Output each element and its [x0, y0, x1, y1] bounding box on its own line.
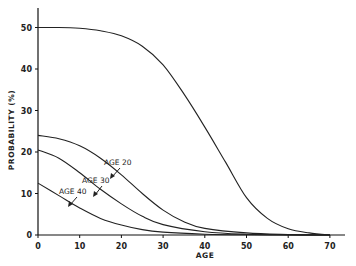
y-tick-label: 50: [21, 24, 33, 33]
x-tick-label: 40: [199, 242, 211, 251]
y-axis-title: PROBABILITY (%): [7, 90, 16, 170]
curve-age-20: [38, 135, 330, 235]
x-tick-label: 30: [158, 242, 170, 251]
x-tick-label: 60: [283, 242, 295, 251]
y-axis-ticks: 01020304050: [21, 24, 38, 241]
curve-upper-curve-unlabeled: [38, 27, 330, 235]
y-tick-label: 40: [21, 65, 33, 74]
annotation-age-20-label: AGE 20: [104, 158, 132, 167]
x-axis-ticks: 010203040506070: [35, 235, 336, 251]
y-tick-label: 20: [21, 148, 33, 157]
series-curves: [38, 27, 330, 235]
x-tick-label: 10: [74, 242, 86, 251]
y-tick-label: 30: [21, 107, 33, 116]
probability-vs-age-chart: 01020304050 010203040506070 AGE PROBABIL…: [0, 0, 356, 266]
x-tick-label: 70: [324, 242, 336, 251]
annotation-age-40-label: AGE 40: [59, 187, 87, 196]
x-tick-label: 0: [35, 242, 41, 251]
x-tick-label: 50: [241, 242, 253, 251]
y-tick-label: 0: [26, 231, 32, 240]
annotation-age-30-label: AGE 30: [82, 176, 110, 185]
annotation-age-40: AGE 40: [59, 187, 87, 207]
y-tick-label: 10: [21, 190, 33, 199]
x-tick-label: 20: [116, 242, 128, 251]
x-axis-title: AGE: [196, 251, 215, 260]
